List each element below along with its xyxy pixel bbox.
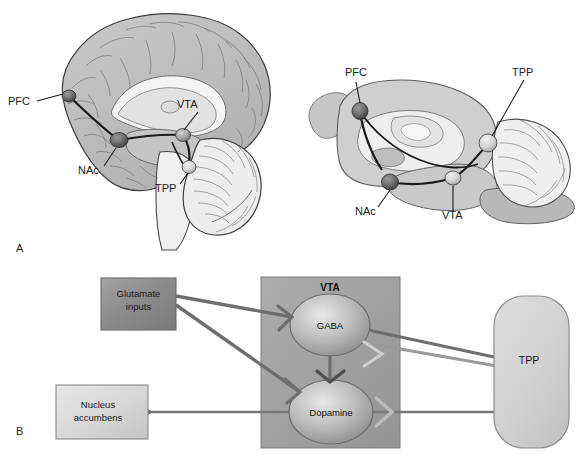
dopamine-label: Dopamine [309,407,352,418]
vta-region-label: VTA [320,282,339,293]
human-label-vta: VTA [177,98,198,110]
human-nucleus-tpp [182,161,196,174]
rat-label-pfc: PFC [345,66,367,78]
rat-nucleus-vta [445,171,461,185]
panel-b: Glutamate inputs Nucleus accumbens VTA G… [16,277,569,448]
tpp-label: TPP [519,354,539,366]
tpp-region[interactable] [494,296,569,448]
human-label-pfc: PFC [8,95,30,107]
human-nucleus-nac [110,133,128,148]
glutamate-label-line1: Glutamate [117,288,161,299]
gaba-label: GABA [317,320,344,331]
rat-cerebellum [492,119,570,207]
panel-a: PFC NAc VTA TPP [8,14,574,254]
rat-nucleus-tpp [479,134,497,152]
human-label-nac: NAc [78,164,99,176]
human-label-tpp: TPP [155,182,176,194]
panel-label-b: B [16,425,23,437]
figure-container: PFC NAc VTA TPP [0,0,581,456]
nucleus-accumbens-label-line2: accumbens [74,412,123,423]
glutamate-label-line2: inputs [126,301,152,312]
rat-label-tpp: TPP [512,66,533,78]
human-nucleus-vta [176,129,191,142]
cerebellum [183,138,261,235]
human-nucleus-pfc [62,90,76,102]
leader-rat-nac [378,190,390,207]
leader-human-pfc [37,94,63,101]
rat-nucleus-nac [382,174,399,190]
rat-brain-illustration: PFC TPP NAc VTA [309,66,574,224]
rat-label-vta: VTA [442,209,463,221]
rat-nucleus-pfc [352,103,368,120]
nucleus-accumbens-label-line1: Nucleus [81,399,116,410]
panel-label-a: A [16,242,24,254]
rat-label-nac: NAc [355,205,376,217]
figure-svg: PFC NAc VTA TPP [0,0,581,456]
human-brain-illustration: PFC NAc VTA TPP [8,14,270,250]
